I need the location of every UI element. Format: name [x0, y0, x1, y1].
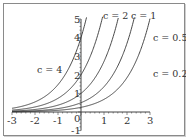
exponential-chart: -3 -2 -1 0 1 2 3 -1 1 2 3 4 5 c = 4 c = …: [0, 0, 186, 138]
x-tick-label: 0: [74, 113, 80, 124]
x-tick-label: 3: [147, 115, 153, 126]
x-tick-label: -1: [53, 115, 63, 126]
labels: -3 -2 -1 0 1 2 3 -1 1 2 3 4 5 c = 4 c = …: [7, 10, 186, 136]
curve-label-c025: c = 0.25: [153, 68, 186, 79]
curve-label-c2: c = 2: [103, 10, 128, 21]
x-tick-label: 1: [101, 115, 107, 126]
x-tick-label: -2: [30, 115, 40, 126]
y-tick-label: 1: [74, 88, 80, 99]
curve-label-c1: c = 1: [131, 10, 156, 21]
x-tick-label: 2: [124, 115, 130, 126]
curve-c1: [12, 18, 118, 111]
curve-label-c05: c = 0.5: [153, 32, 186, 43]
y-tick-label: 2: [74, 70, 80, 81]
curve-label-c4: c = 4: [37, 64, 62, 75]
y-tick-label: 3: [74, 51, 80, 62]
y-tick-label: 4: [74, 32, 80, 43]
y-tick-label: 5: [74, 14, 80, 25]
x-tick-label: -3: [7, 115, 17, 126]
y-tick-label: -1: [71, 125, 81, 136]
